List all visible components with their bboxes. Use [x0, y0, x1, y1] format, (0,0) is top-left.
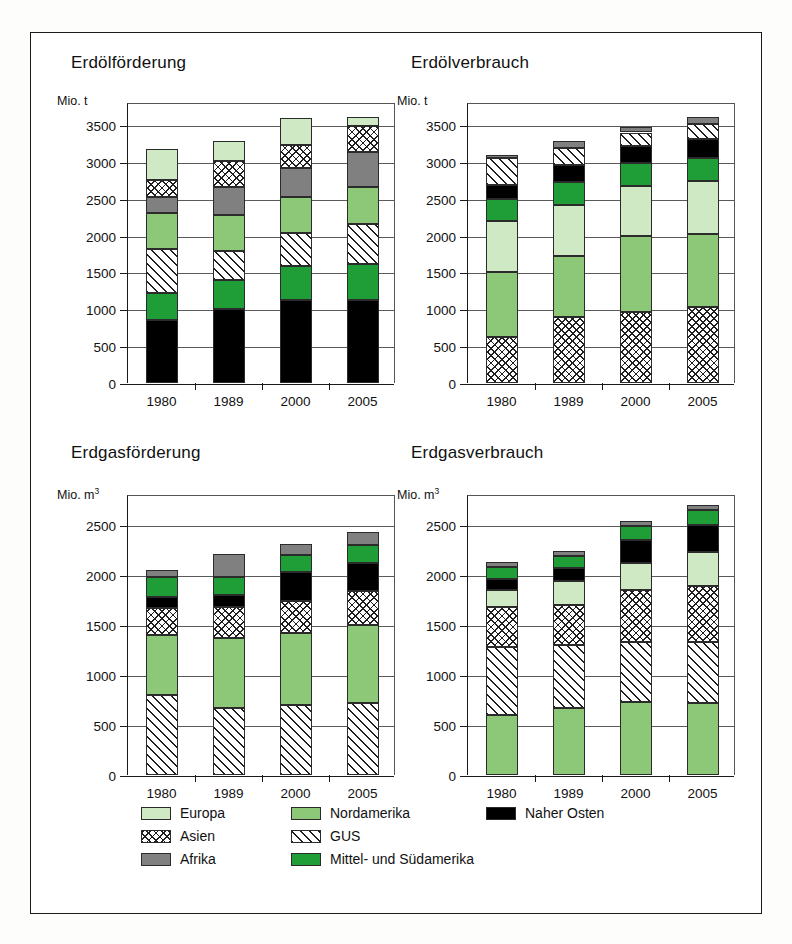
y-axis-tick	[460, 526, 468, 527]
y-axis-tick-label: 500	[433, 719, 456, 734]
x-axis-tick	[262, 775, 263, 782]
bar-segment-afrika	[213, 187, 245, 215]
bar-segment-gus	[687, 642, 719, 703]
y-axis-tick	[460, 626, 468, 627]
y-axis-tick-label: 0	[448, 769, 456, 784]
chart-panel-erdoelverbrauch: ErdölverbrauchMio. t05001000150020002500…	[389, 43, 739, 423]
bar-segment-gus	[486, 647, 518, 715]
y-axis-tick-label: 1000	[426, 669, 456, 684]
y-axis-tick	[460, 126, 468, 127]
bar-segment-nordamerika	[280, 197, 312, 233]
bar-segment-afrika	[553, 551, 585, 556]
bar-erdoelfoerderung-2000	[280, 118, 312, 383]
x-axis-tick-label: 1989	[213, 786, 243, 801]
bar-segment-naherosten	[280, 300, 312, 383]
y-axis-tick-label: 1000	[86, 303, 116, 318]
legend-swatch-naherosten-icon	[486, 807, 516, 820]
bar-segment-afrika	[620, 127, 652, 133]
y-axis-tick	[120, 576, 128, 577]
bar-erdoelfoerderung-1980	[146, 149, 178, 383]
legend-swatch-europa-icon	[141, 807, 171, 820]
bar-erdgasverbrauch-2000	[620, 521, 652, 775]
legend-item-gus[interactable]: GUS	[291, 828, 360, 844]
bar-segment-mittelsued	[553, 556, 585, 568]
x-axis-line	[468, 776, 734, 777]
bar-segment-afrika	[280, 168, 312, 197]
bar-segment-afrika	[486, 562, 518, 567]
figure-frame: ErdölförderungMio. t05001000150020002500…	[30, 32, 762, 914]
bar-segment-asien	[347, 591, 379, 625]
bar-erdgasfoerderung-2000	[280, 544, 312, 776]
bar-segment-afrika	[620, 521, 652, 526]
y-axis-tick-label: 1500	[426, 266, 456, 281]
y-axis-tick-label: 2500	[86, 519, 116, 534]
bar-erdgasverbrauch-1989	[553, 551, 585, 775]
y-axis-tick-label: 2000	[426, 229, 456, 244]
plot-area-erdoelfoerderung: 0500100015002000250030003500198019892000…	[127, 103, 395, 383]
chart-title-erdoelfoerderung: Erdölförderung	[71, 53, 186, 73]
x-axis-tick	[535, 383, 536, 390]
bar-segment-nordamerika	[620, 702, 652, 775]
legend-item-naherosten[interactable]: Naher Osten	[486, 805, 604, 821]
bar-segment-europa	[553, 205, 585, 256]
x-axis-tick-label: 1989	[553, 786, 583, 801]
bar-segment-mittelsued	[280, 266, 312, 300]
bar-segment-naherosten	[486, 185, 518, 199]
y-axis-tick	[460, 384, 468, 385]
y-axis-tick-label: 2500	[426, 519, 456, 534]
bar-erdoelverbrauch-1980	[486, 155, 518, 383]
bar-segment-afrika	[486, 155, 518, 158]
x-axis-tick	[329, 383, 330, 390]
legend-item-europa[interactable]: Europa	[141, 805, 225, 821]
bar-segment-nordamerika	[146, 213, 178, 249]
bar-segment-gus	[213, 708, 245, 775]
y-axis-tick	[120, 126, 128, 127]
y-axis-tick	[120, 163, 128, 164]
chart-ylabel-erdoelfoerderung: Mio. t	[57, 94, 88, 108]
y-axis-tick-label: 500	[93, 340, 116, 355]
y-axis-tick-label: 500	[93, 719, 116, 734]
y-axis-tick	[120, 200, 128, 201]
bar-segment-gus	[146, 249, 178, 293]
plot-area-erdgasfoerderung: 050010001500200025001980198920002005	[127, 495, 395, 775]
x-axis-line	[468, 384, 734, 385]
bar-erdoelverbrauch-2000	[620, 127, 652, 383]
bar-segment-europa	[553, 581, 585, 606]
y-axis-tick-label: 3500	[86, 119, 116, 134]
bar-segment-nordamerika	[486, 272, 518, 338]
y-axis-tick-label: 3000	[426, 155, 456, 170]
bar-segment-gus	[553, 645, 585, 708]
bar-segment-mittelsued	[486, 199, 518, 221]
bar-segment-naherosten	[280, 572, 312, 601]
bar-erdgasfoerderung-2005	[347, 532, 379, 776]
bar-segment-asien	[213, 607, 245, 638]
bar-erdoelfoerderung-2005	[347, 117, 379, 383]
legend-item-mittelsued[interactable]: Mittel- und Südamerika	[291, 851, 474, 867]
bar-segment-naherosten	[213, 595, 245, 608]
bar-segment-europa	[146, 149, 178, 180]
bar-segment-afrika	[553, 141, 585, 148]
y-axis-tick-label: 1000	[86, 669, 116, 684]
bar-segment-naherosten	[213, 309, 245, 383]
legend-item-afrika[interactable]: Afrika	[141, 851, 216, 867]
legend-label-europa: Europa	[180, 805, 225, 821]
bar-erdgasverbrauch-2005	[687, 505, 719, 775]
x-axis-tick-label: 1989	[553, 394, 583, 409]
y-axis-tick-label: 1500	[86, 266, 116, 281]
y-axis-tick-label: 2500	[86, 192, 116, 207]
y-axis-tick	[120, 776, 128, 777]
bar-segment-asien	[553, 605, 585, 645]
y-axis-tick	[460, 200, 468, 201]
bar-segment-asien	[280, 145, 312, 169]
x-axis-tick	[535, 775, 536, 782]
bar-segment-naherosten	[687, 525, 719, 552]
bar-segment-afrika	[687, 117, 719, 123]
bar-segment-mittelsued	[280, 555, 312, 573]
bar-segment-mittelsued	[347, 545, 379, 564]
legend-swatch-mittelsued-icon	[291, 853, 321, 866]
y-axis-tick-label: 3500	[426, 119, 456, 134]
bar-segment-asien	[146, 180, 178, 197]
legend-item-asien[interactable]: Asien	[141, 828, 215, 844]
legend-item-nordamerika[interactable]: Nordamerika	[291, 805, 410, 821]
bar-segment-europa	[620, 186, 652, 235]
